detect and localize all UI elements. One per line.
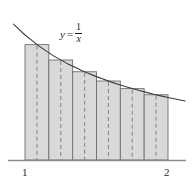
curve-equation-lhs: y [60, 28, 65, 40]
x-axis-tick-label-1: 1 [22, 167, 28, 178]
curve-equation-fraction: 1 x [75, 22, 82, 44]
riemann-sum-figure [0, 0, 194, 189]
x-axis-tick-label-2: 2 [164, 167, 170, 178]
curve-equation-equals: = [67, 28, 73, 40]
curve-equation-label: y= 1 x [60, 22, 82, 44]
bars-group [25, 45, 168, 160]
curve-equation-denominator: x [75, 34, 82, 44]
curve-equation-numerator: 1 [75, 22, 82, 32]
